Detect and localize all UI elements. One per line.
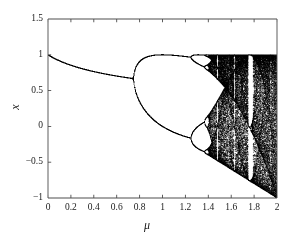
- y-axis-label: x: [9, 98, 21, 116]
- x-tick-label: 0: [46, 203, 51, 213]
- x-tick-label: 0.8: [134, 203, 146, 213]
- x-tick-label: 0.6: [111, 203, 123, 213]
- y-tick-label: −1: [14, 193, 43, 203]
- x-tick-label: 1.6: [225, 203, 237, 213]
- x-tick-label: 1.2: [179, 203, 191, 213]
- y-tick-label: 1: [14, 50, 43, 60]
- x-tick-label: 1.4: [202, 203, 214, 213]
- x-tick-label: 1: [160, 203, 165, 213]
- y-tick-label: 1.5: [14, 14, 43, 24]
- bifurcation-diagram-figure: x μ 00.20.40.60.811.21.41.61.82 1.510.50…: [0, 0, 294, 242]
- x-tick-label: 2: [275, 203, 280, 213]
- x-tick-label: 0.2: [65, 203, 77, 213]
- x-axis-label: μ: [0, 219, 294, 231]
- y-tick-label: 0: [14, 122, 43, 132]
- x-tick-label: 1.8: [248, 203, 260, 213]
- y-tick-label: 0.5: [14, 86, 43, 96]
- x-tick-label: 0.4: [88, 203, 100, 213]
- y-tick-label: −0.5: [14, 157, 43, 167]
